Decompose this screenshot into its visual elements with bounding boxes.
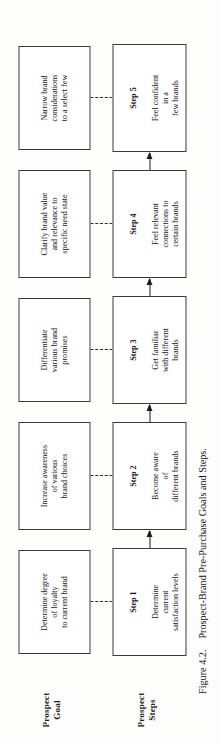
arrow-step4-to-step5 xyxy=(149,153,150,170)
step-box-5-body: Feel confident in a few brands xyxy=(150,75,179,122)
figure-page: Prospect Goal Prospect Steps Determine d… xyxy=(0,0,219,742)
goal-box-4: Clarify brand value and relevance to spe… xyxy=(18,170,90,278)
step-box-1: Step 1 Determine current satisfaction le… xyxy=(112,548,186,656)
dashed-connector-5 xyxy=(90,97,112,98)
goal-box-2: Increase awareness of various brand choi… xyxy=(18,422,90,530)
step-box-2-heading: Step 2 xyxy=(128,450,138,501)
step-box-3-heading: Step 3 xyxy=(128,328,138,372)
arrow-step2-to-step3 xyxy=(149,405,150,422)
step-box-5-text: Step 5 Feel confident in a few brands xyxy=(118,75,180,122)
goal-box-1-text: Determine degree of loyalty to current b… xyxy=(39,573,70,631)
step-box-2-body: Become aware of different brands xyxy=(150,450,179,501)
goal-box-3-text: Differentiate various brand promises xyxy=(39,328,70,372)
step-box-1-heading: Step 1 xyxy=(128,573,138,631)
step-box-5-heading: Step 5 xyxy=(128,75,138,122)
step-box-2: Step 2 Become aware of different brands xyxy=(112,422,186,530)
step-box-5: Step 5 Feel confident in a few brands xyxy=(112,44,186,152)
figure-number: Figure 4.2. xyxy=(196,650,207,694)
dashed-connector-2 xyxy=(90,475,112,476)
step-box-4: Step 4 Feel relevant connections to cert… xyxy=(112,170,186,278)
step-box-4-text: Step 4 Feel relevant connections to cert… xyxy=(118,201,180,248)
step-box-4-body: Feel relevant connections to certain bra… xyxy=(150,201,179,248)
figure-caption: Figure 4.2.Prospect-Brand Pre-Purchase G… xyxy=(196,34,208,694)
rotated-figure-stage: Prospect Goal Prospect Steps Determine d… xyxy=(0,0,219,742)
flowchart-diagram: Prospect Goal Prospect Steps Determine d… xyxy=(0,0,219,742)
goal-box-4-text: Clarify brand value and relevance to spe… xyxy=(39,193,70,256)
goal-box-1: Determine degree of loyalty to current b… xyxy=(18,550,90,654)
row-label-prospect-steps: Prospect Steps xyxy=(135,684,157,736)
goal-box-3: Differentiate various brand promises xyxy=(18,298,90,402)
goal-box-5-text: Narrow brand considerations to a select … xyxy=(39,75,70,122)
step-box-3-text: Step 3 Get familiar with different brand… xyxy=(118,328,180,372)
arrow-step3-to-step4 xyxy=(149,279,150,296)
step-box-1-text: Step 1 Determine current satisfaction le… xyxy=(118,573,180,631)
dashed-connector-4 xyxy=(90,223,112,224)
step-box-3-body: Get familiar with different brands xyxy=(150,328,179,372)
step-box-4-heading: Step 4 xyxy=(128,201,138,248)
goal-box-5: Narrow brand considerations to a select … xyxy=(18,46,90,150)
arrow-step1-to-step2 xyxy=(149,531,150,548)
step-box-3: Step 3 Get familiar with different brand… xyxy=(112,296,186,404)
figure-caption-text: Prospect-Brand Pre-Purchase Goals and St… xyxy=(196,448,207,638)
row-label-prospect-goal: Prospect Goal xyxy=(40,684,62,736)
step-box-2-text: Step 2 Become aware of different brands xyxy=(118,450,180,501)
dashed-connector-1 xyxy=(90,601,112,602)
dashed-connector-3 xyxy=(90,349,112,350)
goal-box-2-text: Increase awareness of various brand choi… xyxy=(39,445,70,507)
step-box-1-body: Determine current satisfaction levels xyxy=(150,573,179,631)
